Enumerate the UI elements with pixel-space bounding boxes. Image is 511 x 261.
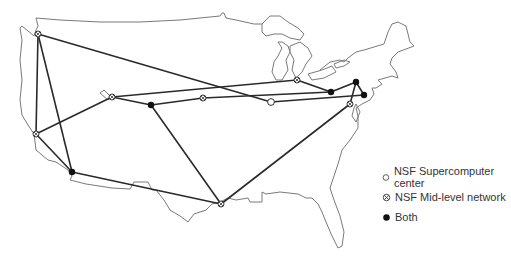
node-san-diego-both-icon (69, 169, 75, 175)
node-lincoln-mid-level-icon (200, 95, 206, 101)
legend-label: NSF Supercomputer center (394, 165, 511, 189)
legend-item-mid-level: NSF Mid-level network (382, 187, 511, 207)
node-ithaca-both-icon (353, 79, 359, 85)
network-links (36, 34, 364, 204)
us-outline (20, 13, 414, 248)
filled-circle-icon (382, 213, 391, 222)
node-seattle-mid-level-icon (35, 31, 41, 37)
network-nodes (33, 31, 367, 207)
legend-item-both: Both (382, 207, 511, 227)
open-circle-icon (382, 173, 390, 182)
node-salt-lake-mid-level-icon (109, 94, 115, 100)
node-houston-mid-level-icon (218, 201, 224, 207)
crossed-circle-icon (382, 193, 391, 202)
legend-item-supercomputer: NSF Supercomputer center (382, 167, 511, 187)
node-ann-arbor-mid-level-icon (294, 77, 300, 83)
legend-label: Both (395, 211, 418, 223)
node-pittsburgh-both-icon (328, 89, 334, 95)
node-urbana-supercomputer-icon (268, 99, 275, 106)
node-palo-alto-mid-level-icon (33, 131, 39, 137)
node-boulder-both-icon (148, 102, 154, 108)
map-legend: NSF Supercomputer center NSF Mid-level n… (382, 167, 511, 227)
legend-label: NSF Mid-level network (395, 191, 506, 203)
node-princeton-both-icon (361, 92, 367, 98)
node-college-park-mid-level-icon (347, 101, 353, 107)
